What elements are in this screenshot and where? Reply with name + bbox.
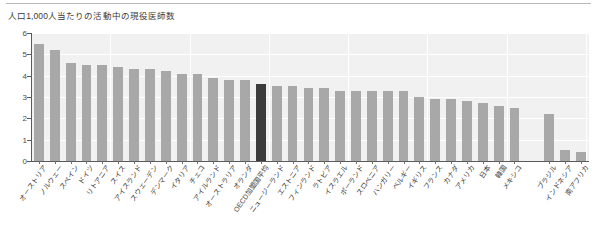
bar xyxy=(113,67,123,161)
bar xyxy=(446,99,456,161)
bar xyxy=(510,108,520,161)
bar xyxy=(383,91,393,161)
bar xyxy=(50,50,60,161)
bar xyxy=(319,88,329,161)
bar xyxy=(367,91,377,161)
y-axis-tick-label: 6 xyxy=(5,29,27,38)
y-axis-tick-label: 0 xyxy=(5,157,27,166)
bar xyxy=(129,69,139,161)
bar xyxy=(462,101,472,161)
bar xyxy=(224,80,234,161)
y-axis-tick-label: 5 xyxy=(5,50,27,59)
bar xyxy=(161,71,171,161)
bar xyxy=(145,69,155,161)
y-axis-tick-label: 4 xyxy=(5,71,27,80)
header-divider xyxy=(6,3,591,4)
bar xyxy=(351,91,361,161)
bar xyxy=(576,152,586,161)
bar xyxy=(288,86,298,161)
bar xyxy=(177,74,187,161)
chart-figure: 人口1,000人当たりの活動中の現役医師数 0123456 オーストリアノルウェ… xyxy=(0,0,597,227)
bar xyxy=(82,65,92,161)
bar xyxy=(304,88,314,161)
y-axis-tick-label: 3 xyxy=(5,93,27,102)
x-axis-category-label: 日本 xyxy=(478,164,493,180)
bar xyxy=(478,103,488,161)
y-axis-tick-label: 2 xyxy=(5,114,27,123)
bar xyxy=(272,86,282,161)
y-axis-ticks: 0123456 xyxy=(0,33,27,162)
x-axis-labels: オーストリアノルウェースペインドイツリトアニアスイスアイスランドスウェーデンデン… xyxy=(31,164,597,227)
bar xyxy=(399,91,409,161)
bar xyxy=(97,65,107,161)
bar xyxy=(494,106,504,161)
bar xyxy=(335,91,345,161)
bar xyxy=(34,44,44,161)
bar xyxy=(544,114,554,161)
bar xyxy=(256,84,266,161)
bar-series xyxy=(31,33,589,161)
bar xyxy=(430,99,440,161)
bar xyxy=(240,80,250,161)
chart-title: 人口1,000人当たりの活動中の現役医師数 xyxy=(8,11,175,22)
bar xyxy=(414,97,424,161)
y-axis-tick-label: 1 xyxy=(5,135,27,144)
bar xyxy=(66,63,76,161)
bar xyxy=(208,78,218,161)
bar xyxy=(560,150,570,161)
bar xyxy=(193,74,203,161)
